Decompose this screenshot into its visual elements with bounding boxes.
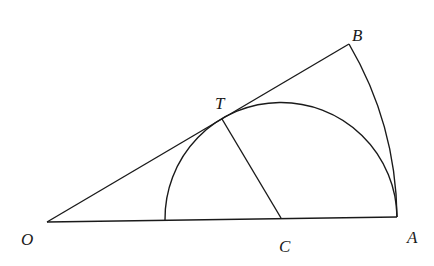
semicircle (165, 102, 397, 220)
segment-OB (47, 44, 349, 222)
geometry-diagram: O A B T C (0, 0, 434, 266)
label-C: C (279, 237, 291, 256)
label-A: A (406, 228, 418, 247)
label-B: B (352, 26, 363, 45)
label-T: T (215, 94, 226, 113)
label-O: O (21, 230, 33, 249)
segment-CT (222, 119, 281, 218)
segment-OA (47, 217, 397, 222)
